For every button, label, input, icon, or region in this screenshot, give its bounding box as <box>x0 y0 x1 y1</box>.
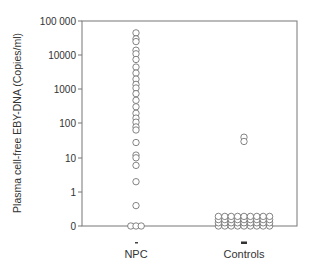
npc-median-marker <box>135 242 138 244</box>
data-point <box>133 90 139 96</box>
scatter-chart: 100 000 10000 1000 100 10 1 0 Plasma cel… <box>0 0 309 269</box>
data-point <box>133 97 139 103</box>
data-point <box>254 213 260 219</box>
data-point <box>222 213 228 219</box>
data-point <box>260 213 266 219</box>
y-tick-label: 100 000 <box>40 16 77 27</box>
data-point <box>133 155 139 161</box>
category-label-controls: Controls <box>224 248 265 260</box>
data-point <box>133 139 139 145</box>
data-point <box>133 56 139 62</box>
y-tick-label: 1000 <box>54 84 77 95</box>
data-point <box>133 179 139 185</box>
data-point <box>133 30 139 36</box>
category-label-npc: NPC <box>124 248 147 260</box>
controls-median-marker <box>241 242 247 245</box>
y-tick-label: 10 <box>65 153 77 164</box>
data-point <box>228 213 234 219</box>
data-point <box>138 223 144 229</box>
data-point <box>133 64 139 70</box>
data-point <box>133 70 139 76</box>
data-point <box>241 138 247 144</box>
plot-frame <box>82 21 297 226</box>
data-point <box>234 213 240 219</box>
data-point <box>133 127 139 133</box>
data-point <box>133 38 139 44</box>
data-point <box>133 104 139 110</box>
y-tick-label: 1 <box>70 187 76 198</box>
data-point <box>241 213 247 219</box>
data-point <box>247 213 253 219</box>
data-point <box>266 213 272 219</box>
y-axis-title: Plasma cell-free EBY-DNA (Copies/ml) <box>11 33 23 213</box>
y-axis: 100 000 10000 1000 100 10 1 0 <box>40 16 82 232</box>
y-tick-label: 0 <box>70 221 76 232</box>
data-point <box>133 202 139 208</box>
y-tick-label: 100 <box>59 118 76 129</box>
data-point <box>133 162 139 168</box>
data-point <box>215 213 221 219</box>
data-points <box>128 30 273 230</box>
y-tick-label: 10000 <box>48 50 76 61</box>
